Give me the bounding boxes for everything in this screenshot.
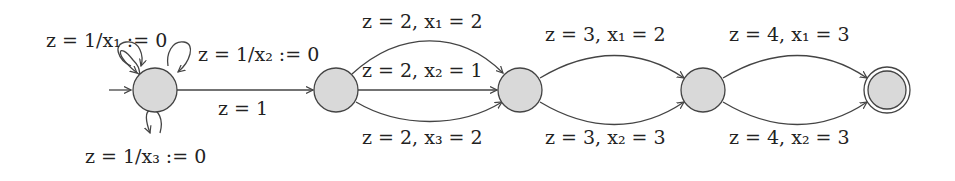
- edge-label-q2-q3-x1: z = 3, x₁ = 2: [545, 23, 666, 45]
- edge-label-loop-x2: z = 1/x₂ := 0: [198, 43, 319, 65]
- edge-label-loop-x1: z = 1/x₁ := 0: [46, 29, 167, 51]
- edge-q3-q4-x1: [723, 56, 867, 79]
- edge-label-q3-q4-x2: z = 4, x₂ = 3: [729, 126, 850, 148]
- edge-label-q1-q2-x3: z = 2, x₃ = 2: [362, 126, 483, 148]
- edge-label-q1-q2-x1: z = 2, x₁ = 2: [362, 10, 483, 32]
- edge-label-loop-x3: z = 1/x₃ := 0: [85, 145, 206, 167]
- self-loop-x3-arc: [146, 110, 161, 133]
- edge-label-q0-q1: z = 1: [218, 97, 268, 119]
- edge-label-q3-q4-x1: z = 4, x₁ = 3: [729, 23, 850, 45]
- state-q1: [314, 68, 358, 112]
- edge-q1-q2-x3: [356, 102, 502, 122]
- state-q0: [133, 68, 177, 112]
- state-q3: [681, 68, 725, 112]
- edge-q2-q3-x1: [540, 56, 684, 79]
- edge-q3-q4-x2: [723, 102, 867, 125]
- edge-label-q2-q3-x2: z = 3, x₂ = 3: [545, 126, 666, 148]
- state-q4: [868, 71, 906, 109]
- state-q2: [498, 68, 542, 112]
- edge-q2-q3-x2: [540, 102, 684, 125]
- self-loop-x1: [120, 51, 140, 75]
- self-loop-x2-arc: [168, 42, 191, 72]
- edge-label-q1-q2-x2: z = 2, x₂ = 1: [362, 59, 483, 81]
